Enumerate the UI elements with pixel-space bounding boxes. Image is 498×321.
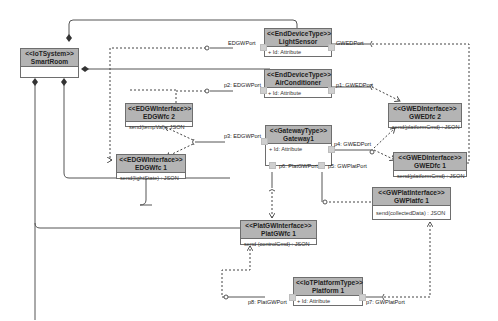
stereotype: <<EDGWInterface>>	[119, 156, 183, 164]
class-name: GWEDfc 2	[391, 113, 459, 121]
port-ls-edgw[interactable]	[260, 44, 267, 51]
class-gwplatfc1[interactable]: <<GWPlatInterface>> GWPlatfc 1 send(coll…	[372, 187, 451, 220]
attribute: + Id: Attribute	[294, 296, 362, 306]
stereotype: <<IoTSystem>>	[23, 50, 76, 58]
label-ls-gwed: GWEDPort	[336, 40, 364, 47]
class-name: EDGWfc 1	[119, 164, 183, 172]
class-edgwfc2[interactable]: <<EDGWInterface>> EDGWfc 2 send(tempVal)…	[125, 103, 193, 127]
label-gw-platgw: p6: PlatGWPort	[279, 163, 318, 170]
port-ls-gwed[interactable]	[328, 44, 335, 51]
label-pf-gwplat: p7: GWPlatPort	[366, 299, 405, 306]
diagram-canvas: <<IoTSystem>> SmartRoom <<EndDeviceType>…	[0, 0, 498, 321]
class-header: <<EndDeviceType>> LightSensor	[265, 29, 331, 47]
class-gwedfc2[interactable]: <<GWEDInterface>> GWEDfc 2 send(platform…	[388, 103, 462, 128]
class-name: AirConditioner	[267, 79, 329, 87]
operation: send (controlCmd) : JSON	[241, 239, 316, 249]
port-gw-edgw[interactable]	[261, 138, 268, 145]
composition-lightsensor	[69, 20, 297, 38]
class-header: <<IoTPlatformType>> Platform 1	[294, 278, 362, 296]
stereotype: <<EndDeviceType>>	[267, 30, 329, 38]
operation: send(tempVal) : JSON	[126, 122, 192, 132]
stereotype: <<EndDeviceType>>	[267, 71, 329, 79]
stereotype: <<GWEDInterface>>	[391, 105, 459, 113]
class-header: <<EDGWInterface>> EDGWfc 1	[117, 155, 185, 173]
class-smartroom[interactable]: <<IoTSystem>> SmartRoom	[20, 48, 79, 78]
class-header: <<IoTSystem>> SmartRoom	[21, 49, 78, 67]
class-lightsensor[interactable]: <<EndDeviceType>> LightSensor + Id: Attr…	[264, 28, 332, 57]
class-header: <<GWEDInterface>> GWEDfc 2	[389, 104, 461, 122]
class-body	[21, 67, 78, 78]
class-name: LightSensor	[267, 38, 329, 46]
port-ac-gwed[interactable]	[328, 87, 335, 94]
attribute: + Id: Attribute	[265, 88, 331, 98]
class-platgwfc1[interactable]: <<PlatGWInterface>> PlatGWfc 1 send (con…	[240, 220, 317, 245]
attribute: + Id: Attribute	[266, 144, 331, 154]
label-ac-gwed: p1: GWEDPort	[336, 82, 373, 89]
operation: send(platformCmd) : JSON	[394, 171, 466, 181]
port-gw-gwplat[interactable]	[318, 162, 325, 169]
class-name: SmartRoom	[23, 58, 76, 66]
operation: send(platformCmd) : JSON	[389, 122, 461, 132]
port-ac-edgw[interactable]	[260, 87, 267, 94]
class-name: Gateway1	[268, 135, 329, 143]
port-gw-platgw[interactable]	[269, 162, 276, 169]
stereotype: <<IoTPlatformType>>	[296, 279, 360, 287]
class-header: <<GatewayType>> Gateway1	[266, 126, 331, 144]
attribute: + Id: Attribute	[265, 47, 331, 57]
class-name: GWPlatfc 1	[375, 197, 448, 205]
label-gw-edgw: p3: EDGWPort	[224, 133, 261, 140]
stereotype: <<GatewayType>>	[268, 127, 329, 135]
label-gw-gwed: p4: GWEDPort	[334, 141, 371, 148]
class-platform1[interactable]: <<IoTPlatformType>> Platform 1 + Id: Att…	[293, 277, 363, 306]
class-name: EDGWfc 2	[128, 113, 190, 121]
operation: send(collectedData) : JSON	[373, 206, 450, 218]
class-name: Platform 1	[296, 287, 360, 295]
class-edgwfc1[interactable]: <<EDGWInterface>> EDGWfc 1 send(lightSta…	[116, 154, 186, 179]
composition-airconditioner	[88, 69, 270, 70]
stereotype: <<GWPlatInterface>>	[375, 189, 448, 197]
label-pf-platgw: p8: PlatGWPort	[248, 299, 287, 306]
class-header: <<GWPlatInterface>> GWPlatfc 1	[373, 188, 450, 206]
class-name: PlatGWfc 1	[243, 230, 314, 238]
label-gw-gwplat: p5: GWPlatPort	[328, 163, 367, 170]
class-gwedfc1[interactable]: <<GWEDInterface>> GWEDfc 1 send(platform…	[393, 152, 467, 177]
class-airconditioner[interactable]: <<EndDeviceType>> AirConditioner + Id: A…	[264, 69, 332, 98]
class-header: <<EDGWInterface>> EDGWfc 2	[126, 104, 192, 122]
class-gateway1[interactable]: <<GatewayType>> Gateway1 + Id: Attribute	[265, 125, 332, 166]
label-ac-edgw: p2: EDGWPort	[224, 82, 261, 89]
stereotype: <<PlatGWInterface>>	[243, 222, 314, 230]
port-pf-platgw[interactable]	[289, 294, 296, 301]
label-ls-edgw: EDGWPort	[228, 40, 256, 47]
class-header: <<GWEDInterface>> GWEDfc 1	[394, 153, 466, 171]
class-name: GWEDfc 1	[396, 162, 464, 170]
operation: send(lightState) : JSON	[117, 173, 185, 183]
class-header: <<EndDeviceType>> AirConditioner	[265, 70, 331, 88]
composition-platgwifc	[35, 223, 240, 228]
class-header: <<PlatGWInterface>> PlatGWfc 1	[241, 221, 316, 239]
stereotype: <<EDGWInterface>>	[128, 105, 190, 113]
stereotype: <<GWEDInterface>>	[396, 154, 464, 162]
port-pf-gwplat[interactable]	[359, 294, 366, 301]
